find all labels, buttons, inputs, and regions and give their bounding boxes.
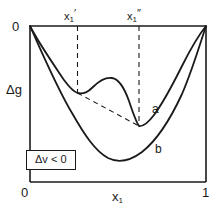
annotation-text: Δv < 0 bbox=[35, 153, 67, 165]
x-axis-max-label: 1 bbox=[202, 186, 209, 199]
curve-a-label: a bbox=[152, 103, 159, 115]
tick-label-x1-prime: x1′ bbox=[64, 8, 76, 24]
x-axis-label-subscript: 1 bbox=[119, 196, 123, 205]
curve-a bbox=[30, 26, 206, 126]
construction-lines bbox=[78, 26, 140, 125]
free-energy-figure: 0 0 1 Δg x1 x1′ x1″ a b Δv < 0 bbox=[0, 0, 224, 211]
origin-top-label: 0 bbox=[12, 20, 19, 33]
annotation-box: Δv < 0 bbox=[26, 150, 76, 170]
tick-label-x1-double-prime-mark: ″ bbox=[137, 7, 140, 19]
x-axis-label: x1 bbox=[112, 190, 123, 205]
curve-b bbox=[30, 26, 206, 161]
tick-label-x1-double-prime: x1″ bbox=[127, 8, 140, 24]
tick-label-x1-prime-mark: ′ bbox=[74, 7, 76, 19]
common-tangent-line bbox=[78, 93, 140, 126]
curve-b-label: b bbox=[155, 143, 162, 155]
y-axis-label: Δg bbox=[6, 83, 22, 96]
plot-canvas bbox=[0, 0, 224, 211]
origin-bottom-label: 0 bbox=[21, 186, 28, 199]
